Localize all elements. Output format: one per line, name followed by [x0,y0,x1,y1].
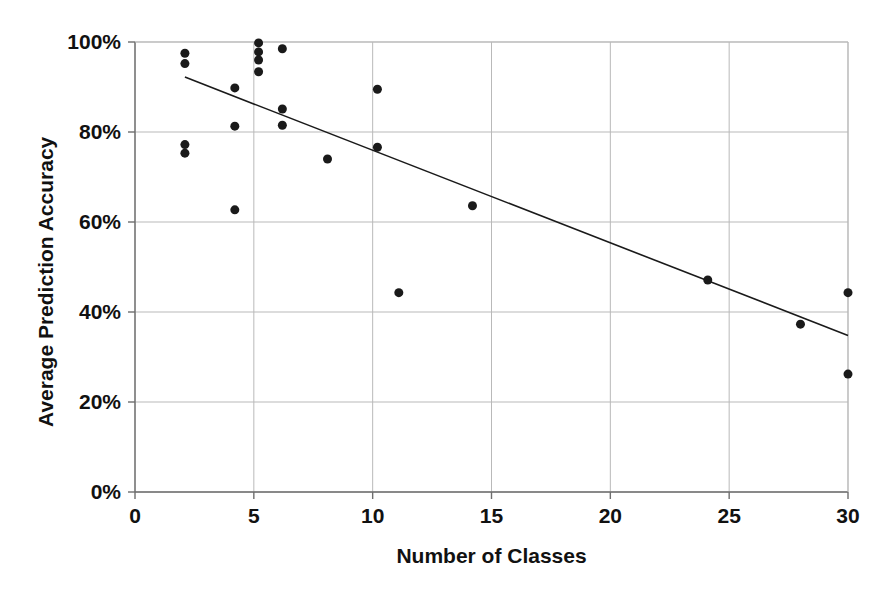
y-tick-label: 40% [0,300,121,324]
x-axis-title: Number of Classes [396,544,586,568]
y-tick-label: 100% [0,30,121,54]
data-point [230,122,239,131]
data-point [180,49,189,58]
data-point [180,140,189,149]
data-point [796,320,805,329]
data-point [254,38,263,47]
x-tick-label: 0 [129,504,141,528]
data-point [230,205,239,214]
data-point [323,155,332,164]
scatter-chart: 0%20%40%60%80%100% 051015202530 Average … [0,0,887,594]
data-points [180,38,852,378]
data-point [394,288,403,297]
y-tick-label: 60% [0,210,121,234]
x-tick-label: 30 [836,504,859,528]
x-tick-label: 25 [717,504,740,528]
data-point [373,143,382,152]
data-point [373,85,382,94]
data-point [180,59,189,68]
data-point [180,149,189,158]
x-tick-label: 10 [361,504,384,528]
gridlines [135,42,848,492]
y-tick-label: 20% [0,390,121,414]
data-point [278,44,287,53]
y-axis-title: Average Prediction Accuracy [34,137,58,427]
data-point [844,288,853,297]
data-point [254,56,263,65]
data-point [254,47,263,56]
data-point [468,201,477,210]
x-tick-label: 15 [480,504,503,528]
x-tick-label: 20 [599,504,622,528]
x-tick-label: 5 [248,504,260,528]
axis-lines [128,42,848,499]
trend-line-segment [185,77,848,335]
data-point [278,121,287,130]
data-point [278,105,287,114]
data-point [703,276,712,285]
data-point [230,83,239,92]
y-tick-label: 0% [0,480,121,504]
data-point [254,67,263,76]
trend-line [185,77,848,335]
data-point [844,370,853,379]
y-tick-label: 80% [0,120,121,144]
